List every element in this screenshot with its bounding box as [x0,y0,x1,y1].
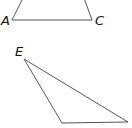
vertex-label-c: C [95,13,105,28]
edge-a-apex [12,0,23,20]
geometry-diagram: A C E D [0,0,132,128]
edge-ef [24,59,128,122]
upper-triangle: A C [0,0,105,28]
lower-triangle: E D [15,44,128,128]
edge-c-apex [84,0,92,20]
vertex-label-a: A [0,13,10,28]
vertex-label-d: D [57,125,67,128]
vertex-label-e: E [15,44,24,59]
edge-ed [24,59,62,123]
edge-df [62,122,128,123]
